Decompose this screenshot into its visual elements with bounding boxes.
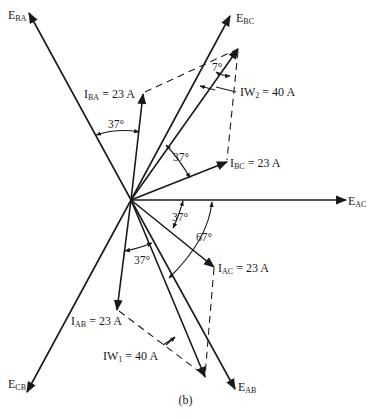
- angle-label-37-bc: 37°: [173, 152, 189, 164]
- label-i-bc: IBC = 23 A: [230, 157, 280, 171]
- label-iw1: IW1 = 40 A: [103, 350, 158, 364]
- label-iw2: IW2 = 40 A: [240, 86, 295, 100]
- angle-label-37-ab: 37°: [134, 255, 150, 267]
- label-e-cb: ECB: [8, 378, 26, 392]
- label-e-ac: EAC: [348, 195, 366, 209]
- phasor-i-ab: [117, 200, 131, 310]
- panel-label: (b): [0, 393, 371, 408]
- label-i-ac: IAC = 23 A: [218, 262, 269, 276]
- label-e-bc: EBC: [236, 12, 254, 26]
- phasor-diagram: [0, 0, 371, 419]
- label-e-ba: EBA: [8, 9, 26, 23]
- angle-label-37-ac: 37°: [172, 212, 188, 224]
- phasor-e-bc: [131, 16, 230, 200]
- angle-label-67: 67°: [196, 232, 212, 244]
- label-i-ab: IAB = 23 A: [71, 315, 122, 329]
- angle-label-37-ba: 37°: [108, 119, 124, 131]
- angle-label-7: 7°: [212, 62, 222, 74]
- phasor-e-ba: [29, 13, 131, 200]
- label-i-ba: IBA = 23 A: [84, 88, 135, 102]
- phasor-i-ba: [131, 94, 143, 200]
